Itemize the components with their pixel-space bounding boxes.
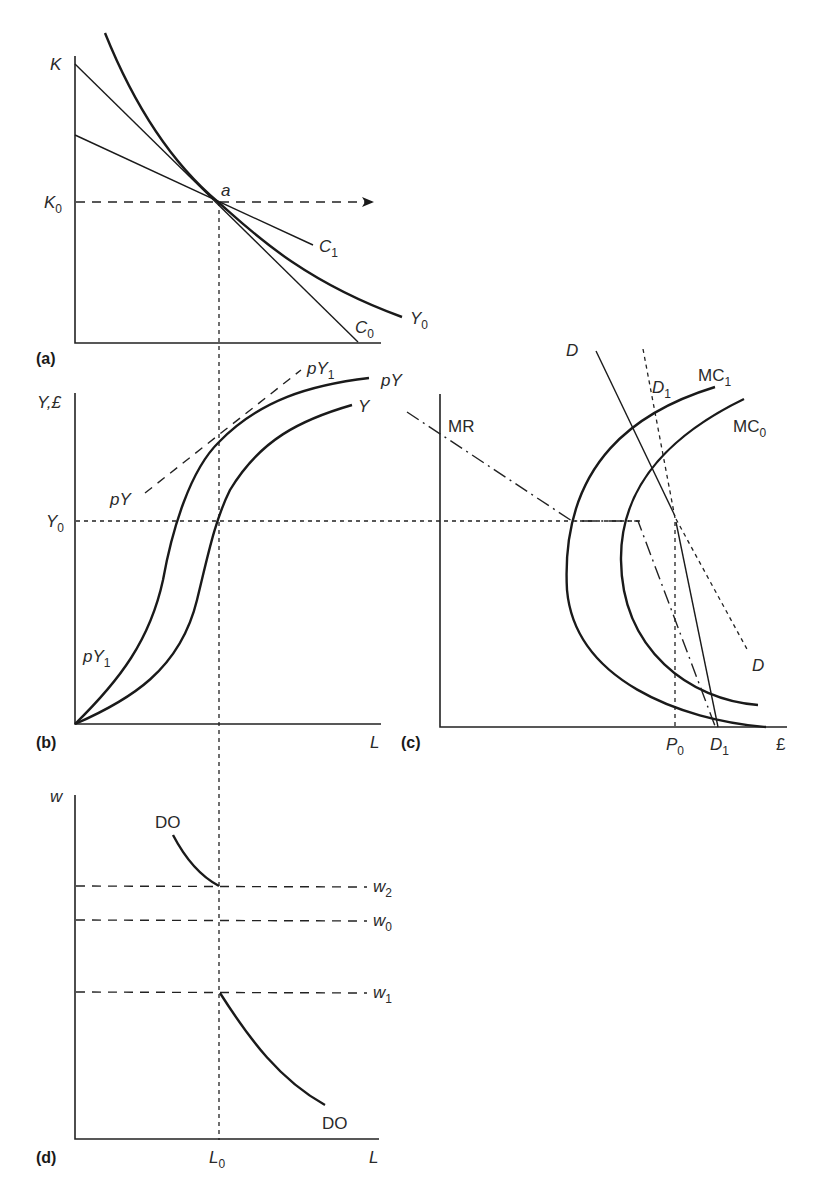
panel-a: K K0 a C1 C0 Y0 (a) (36, 33, 428, 367)
w2-label: w2 (373, 877, 392, 900)
w1-label: w1 (373, 983, 392, 1006)
pound-axis-label: £ (776, 735, 786, 754)
do-curve-lower (220, 993, 325, 1105)
mr-label: MR (448, 417, 474, 436)
panel-d: w DO DO w2 w0 w1 L0 L (d) (36, 787, 392, 1171)
panel-a-tag: (a) (36, 350, 56, 367)
panel-b: Y,£ Y0 pY1 pY Y pY pY1 L (b) (36, 359, 640, 752)
w1-line (76, 992, 367, 993)
py1-curve (75, 378, 369, 724)
demand-d-upper (596, 351, 675, 516)
mc1-label: MC1 (698, 366, 731, 389)
d-top-label: D (566, 341, 578, 360)
d1-top-label: D1 (652, 378, 671, 401)
py-curve-label: pY (380, 371, 403, 390)
y0-label: Y0 (46, 512, 64, 535)
y-curve (75, 405, 352, 724)
do-curve-upper (173, 835, 219, 886)
c0-label: C0 (355, 318, 374, 341)
demand-d-lower (676, 519, 748, 651)
isocost-c1 (75, 135, 313, 245)
y-pound-axis-label: Y,£ (37, 393, 62, 412)
economic-diagram: K K0 a C1 C0 Y0 (a) Y,£ Y0 pY1 pY Y pY p… (0, 0, 819, 1195)
c1-label: C1 (319, 237, 338, 260)
k0-label: K0 (44, 193, 62, 216)
d1-bottom-label: D1 (710, 735, 729, 758)
d-bottom-label: D (752, 656, 764, 675)
l0-label: L0 (209, 1148, 225, 1171)
k-axis-label: K (50, 55, 62, 74)
mc0-label: MC0 (733, 417, 766, 440)
demand-d1-lower (676, 522, 718, 727)
py-dashed-label: pY (109, 490, 132, 509)
panel-c: MR D D1 MC1 MC0 D P0 D1 £ (c) (401, 341, 787, 758)
py1-top-label: pY1 (306, 359, 335, 382)
mc1-curve (567, 387, 766, 727)
py1-bottom-label: pY1 (82, 647, 111, 670)
py-dashed-line (145, 370, 301, 493)
w0-label: w0 (373, 911, 392, 934)
point-a-label: a (221, 181, 230, 200)
isoquant-y0 (105, 33, 402, 317)
mr-curve (407, 412, 715, 726)
w2-line (76, 886, 367, 887)
panel-d-axes (75, 795, 379, 1139)
y0-isoquant-label: Y0 (410, 309, 428, 332)
panel-c-tag: (c) (401, 734, 421, 751)
l-axis-label-b: L (370, 733, 379, 752)
isocost-c0 (75, 64, 358, 342)
do-bottom-label: DO (322, 1114, 348, 1133)
demand-d1-upper (643, 349, 675, 518)
panel-d-tag: (d) (36, 1149, 56, 1166)
l-axis-label-d: L (369, 1148, 378, 1167)
panel-b-tag: (b) (36, 734, 56, 751)
w0-line (76, 920, 367, 921)
y-curve-label: Y (358, 397, 371, 416)
w-axis-label: w (50, 787, 64, 806)
do-top-label: DO (155, 813, 181, 832)
p0-label: P0 (666, 735, 684, 758)
